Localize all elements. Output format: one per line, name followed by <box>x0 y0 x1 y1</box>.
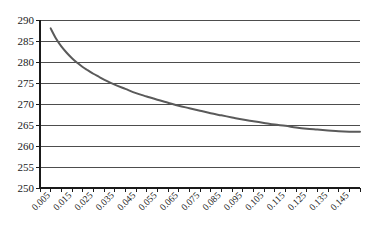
y-tick-label: 265 <box>18 119 35 131</box>
line-chart: 250255260265270275280285290 0.0050.0150.… <box>0 0 372 229</box>
chart-container: 250255260265270275280285290 0.0050.0150.… <box>0 0 372 229</box>
y-tick-label: 255 <box>18 161 35 173</box>
y-tick-label-group: 250255260265270275280285290 <box>18 14 35 194</box>
y-tick-label: 290 <box>18 14 35 26</box>
y-tick-label: 260 <box>18 140 35 152</box>
y-tick-label: 275 <box>18 77 35 89</box>
y-tick-label: 285 <box>18 35 35 47</box>
y-tick-label: 280 <box>18 56 35 68</box>
chart-background <box>0 0 372 229</box>
y-tick-label: 250 <box>18 182 35 194</box>
y-tick-label: 270 <box>18 98 35 110</box>
